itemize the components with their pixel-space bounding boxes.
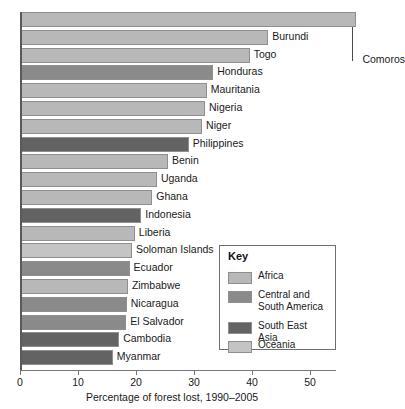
x-tick [20, 370, 21, 375]
bar-row: Togo [20, 48, 344, 63]
bar-value-label: Burundi [272, 29, 308, 44]
bar [20, 83, 207, 98]
bar [20, 65, 213, 80]
legend-item: Central and South America [228, 291, 328, 303]
bar [20, 261, 130, 276]
bar [20, 243, 132, 258]
bar-value-label: Nigeria [209, 100, 242, 115]
legend-title: Key [228, 250, 248, 262]
bar-value-label: Ecuador [134, 260, 173, 275]
bar-value-label: Niger [206, 118, 231, 133]
bar-value-label: Cambodia [123, 331, 171, 346]
bar [20, 101, 205, 116]
x-tick-label: 50 [304, 376, 316, 388]
bar [20, 350, 113, 365]
bar-row: Benin [20, 154, 344, 169]
bar-row: Philippines [20, 137, 344, 152]
legend-label: Central and South America [258, 289, 323, 312]
x-tick-label: 20 [130, 376, 142, 388]
bar-row: Liberia [20, 226, 344, 241]
bar-value-label: Ghana [156, 189, 188, 204]
legend-label: Africa [258, 270, 284, 282]
bar-row: Uganda [20, 172, 344, 187]
legend-item: Africa [228, 272, 328, 284]
bar [20, 30, 268, 45]
bar [20, 137, 189, 152]
bar [20, 48, 250, 63]
bar-value-label: Togo [254, 47, 277, 62]
x-tick [136, 370, 137, 375]
x-tick [252, 370, 253, 375]
legend-swatch [228, 291, 252, 303]
bar [20, 172, 157, 187]
x-tick-label: 10 [72, 376, 84, 388]
x-tick [194, 370, 195, 375]
x-tick [310, 370, 311, 375]
bar [20, 297, 127, 312]
bar [20, 226, 135, 241]
bar [20, 154, 168, 169]
x-tick [78, 370, 79, 375]
bar [20, 332, 119, 347]
y-axis-line [20, 12, 22, 370]
comoros-leader-line [352, 27, 353, 61]
legend-swatch [228, 272, 252, 284]
x-axis-line [20, 370, 336, 371]
bar-value-label: Soloman Islands [136, 242, 214, 257]
bar-value-label: Uganda [161, 171, 198, 186]
bar-value-label: El Salvador [130, 314, 184, 329]
legend-item: Oceania [228, 341, 328, 353]
bar-value-label: Nicaragua [131, 296, 179, 311]
bar [20, 12, 356, 27]
bar-value-label: Mauritania [211, 82, 260, 97]
bar [20, 119, 202, 134]
legend-item: South East Asia [228, 322, 328, 334]
legend-swatch [228, 341, 252, 353]
bar-row: Comoros [20, 12, 344, 27]
bar-value-label: Zimbabwe [132, 278, 180, 293]
x-tick-label: 0 [17, 376, 23, 388]
legend-label: Oceania [258, 339, 295, 351]
bar-row: Mauritania [20, 83, 344, 98]
bar [20, 190, 152, 205]
bar-row: Indonesia [20, 208, 344, 223]
bar-row: Nigeria [20, 101, 344, 116]
x-tick-label: 40 [246, 376, 258, 388]
bar-value-label: Comoros [362, 52, 405, 67]
cropped-title-strip [0, 0, 344, 7]
x-axis-label: Percentage of forest lost, 1990–2005 [0, 391, 344, 403]
bar-value-label: Philippines [193, 136, 244, 151]
bar-row: Honduras [20, 65, 344, 80]
bar-value-label: Honduras [217, 64, 263, 79]
x-tick-label: 30 [188, 376, 200, 388]
bar [20, 279, 128, 294]
bar-value-label: Benin [172, 153, 199, 168]
bar-value-label: Myanmar [117, 349, 161, 364]
bar-row: Burundi [20, 30, 344, 45]
bar-row: Ghana [20, 190, 344, 205]
bar-value-label: Indonesia [145, 207, 191, 222]
bar-value-label: Liberia [139, 225, 171, 240]
bar-row: Niger [20, 119, 344, 134]
legend-box: Key AfricaCentral and South AmericaSouth… [219, 245, 336, 350]
legend-swatch [228, 322, 252, 334]
bar [20, 315, 126, 330]
bar [20, 208, 141, 223]
